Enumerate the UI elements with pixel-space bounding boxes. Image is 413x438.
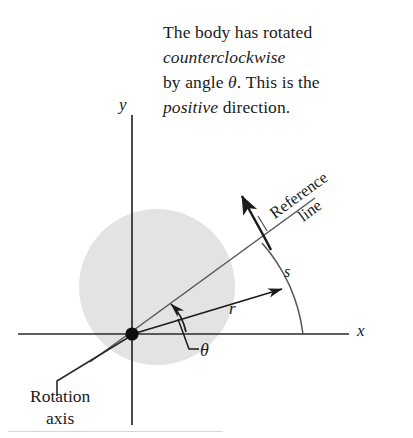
caption-theta-symbol: θ — [228, 72, 237, 92]
caption-text: The body has rotated counterclockwise by… — [163, 20, 403, 120]
rotation-axis-label-line2: axis — [30, 407, 90, 429]
caption-line-4-post: direction. — [218, 97, 290, 117]
arc-label-s: s — [284, 263, 290, 281]
rotation-direction-arrow — [242, 196, 271, 250]
rotating-body-disk — [79, 209, 235, 365]
origin-dot — [125, 327, 138, 340]
caption-line-3-pre: by angle — [163, 72, 228, 92]
rotation-axis-label: Rotation axis — [30, 385, 90, 429]
caption-line-2-counterclockwise: counterclockwise — [163, 47, 285, 67]
caption-line-4-positive: positive — [163, 97, 218, 117]
caption-line-1: The body has rotated — [163, 22, 312, 42]
caption-line-3-post: . This is the — [237, 72, 320, 92]
rotation-axis-label-line1: Rotation — [30, 385, 90, 407]
theta-label: θ — [200, 340, 209, 361]
arc-s-path — [262, 243, 303, 334]
scan-artifact-line — [8, 431, 223, 432]
x-axis-label: x — [357, 321, 365, 341]
y-axis-label: y — [119, 95, 127, 115]
radius-label-r: r — [229, 299, 236, 319]
